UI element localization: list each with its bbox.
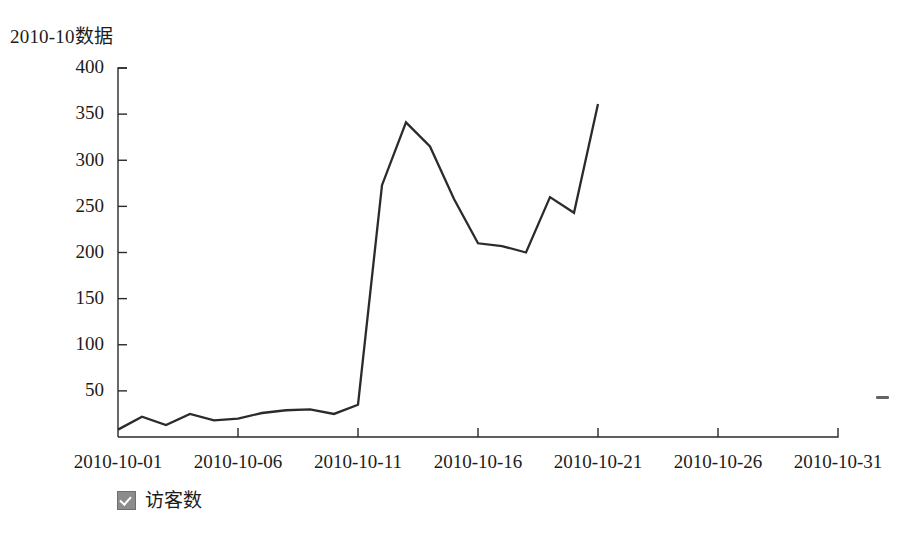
y-axis-tick-label: 100: [76, 333, 105, 354]
x-axis-tick-label: 2010-10-01: [74, 451, 163, 472]
chart-plot-area: 50100150200250300350400 2010-10-012010-1…: [0, 0, 902, 536]
x-axis-tick-marks: [238, 428, 718, 437]
y-axis-tick-label: 250: [76, 195, 105, 216]
checked-checkbox-icon[interactable]: [117, 491, 136, 510]
x-axis-tick-label: 2010-10-11: [314, 451, 402, 472]
y-axis-tick-label: 300: [76, 149, 105, 170]
y-axis-tick-labels: 50100150200250300350400: [76, 56, 105, 400]
x-axis-tick-label: 2010-10-31: [794, 451, 883, 472]
y-axis-tick-label: 350: [76, 102, 105, 123]
x-axis-tick-label: 2010-10-21: [554, 451, 643, 472]
x-axis-tick-label: 2010-10-16: [434, 451, 523, 472]
scan-artifact-dash: [876, 396, 889, 399]
series-line-visitor-count: [118, 104, 598, 430]
x-axis-tick-label: 2010-10-06: [194, 451, 283, 472]
y-axis-tick-label: 150: [76, 287, 105, 308]
legend-item-label: 访客数: [145, 490, 202, 511]
y-axis-tick-label: 200: [76, 241, 105, 262]
y-axis-tick-label: 50: [85, 379, 104, 400]
y-axis-tick-marks: [118, 68, 127, 391]
x-axis-tick-label: 2010-10-26: [674, 451, 763, 472]
chart-legend[interactable]: 访客数: [117, 490, 202, 511]
y-axis-tick-label: 400: [76, 56, 105, 77]
visitor-count-line-chart: 2010-10数据 50100150200250300350400 2010-1…: [0, 0, 902, 536]
x-axis-tick-labels: 2010-10-012010-10-062010-10-112010-10-16…: [74, 451, 883, 472]
